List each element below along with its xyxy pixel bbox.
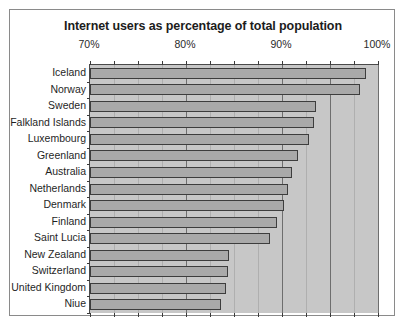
category-tickmark bbox=[87, 164, 90, 165]
bar bbox=[90, 200, 284, 211]
category-label: Sweden bbox=[48, 97, 86, 114]
category-tickmark bbox=[87, 131, 90, 132]
category-tickmark bbox=[87, 263, 90, 264]
bar bbox=[90, 250, 229, 261]
bar bbox=[90, 134, 309, 145]
category-label: Netherlands bbox=[29, 180, 86, 197]
category-tickmark bbox=[87, 197, 90, 198]
axis-tickmark bbox=[378, 313, 379, 317]
bar bbox=[90, 217, 277, 228]
category-label: Greenland bbox=[37, 147, 86, 164]
category-label: Luxembourg bbox=[28, 130, 86, 147]
category-tickmark bbox=[87, 280, 90, 281]
category-tickmark bbox=[87, 313, 90, 314]
category-tickmark bbox=[87, 181, 90, 182]
category-label: Saint Lucia bbox=[34, 229, 86, 246]
category-tickmark bbox=[87, 115, 90, 116]
bar bbox=[90, 101, 316, 112]
category-tickmark bbox=[87, 214, 90, 215]
category-label: Denmark bbox=[43, 196, 86, 213]
axis-tickmark bbox=[258, 313, 259, 317]
category-label: Niue bbox=[64, 295, 86, 312]
category-label: Australia bbox=[45, 163, 86, 180]
bar bbox=[90, 117, 314, 128]
axis-tickmark bbox=[90, 313, 91, 317]
category-tickmark bbox=[87, 230, 90, 231]
axis-tickmark bbox=[330, 313, 331, 317]
category-label: United Kingdom bbox=[11, 279, 86, 296]
axis-tickmark bbox=[378, 61, 379, 65]
category-label: Norway bbox=[50, 81, 86, 98]
axis-tickmark bbox=[138, 313, 139, 317]
axis-tickmark bbox=[306, 313, 307, 317]
axis-tickmark bbox=[162, 313, 163, 317]
category-tickmark bbox=[87, 148, 90, 149]
category-label: Iceland bbox=[52, 64, 86, 81]
bar bbox=[90, 150, 298, 161]
bar bbox=[90, 167, 292, 178]
plot-wrapper: IcelandNorwaySwedenFalkland IslandsLuxem… bbox=[10, 10, 396, 317]
axis-tickmark bbox=[258, 61, 259, 65]
bar bbox=[90, 283, 226, 294]
axis-tickmark bbox=[162, 61, 163, 65]
category-axis-labels: IcelandNorwaySwedenFalkland IslandsLuxem… bbox=[10, 64, 89, 312]
axis-tickmark bbox=[210, 61, 211, 65]
plot-area bbox=[89, 64, 378, 313]
axis-tickmark bbox=[354, 61, 355, 65]
category-label: Finland bbox=[52, 213, 86, 230]
chart-frame: Internet users as percentage of total po… bbox=[9, 9, 395, 316]
bar bbox=[90, 266, 228, 277]
bar bbox=[90, 233, 270, 244]
category-tickmark bbox=[87, 98, 90, 99]
category-label: Switzerland bbox=[32, 262, 86, 279]
axis-tickmark bbox=[282, 61, 283, 65]
axis-tickmark bbox=[114, 61, 115, 65]
gridline bbox=[354, 65, 355, 313]
category-tickmark bbox=[87, 296, 90, 297]
axis-tickmark bbox=[186, 61, 187, 65]
axis-tickmark bbox=[234, 313, 235, 317]
bar bbox=[90, 184, 288, 195]
axis-tickmark bbox=[354, 313, 355, 317]
gridline bbox=[330, 65, 331, 313]
category-label: Falkland Islands bbox=[10, 114, 86, 131]
category-tickmark bbox=[87, 82, 90, 83]
axis-tickmark bbox=[210, 313, 211, 317]
bar bbox=[90, 84, 360, 95]
bar bbox=[90, 299, 221, 310]
axis-tickmark bbox=[90, 61, 91, 65]
axis-tickmark bbox=[138, 61, 139, 65]
gridline bbox=[378, 65, 379, 313]
category-label: New Zealand bbox=[24, 246, 86, 263]
axis-tickmark bbox=[234, 61, 235, 65]
category-tickmark bbox=[87, 247, 90, 248]
axis-tickmark bbox=[186, 313, 187, 317]
axis-tickmark bbox=[114, 313, 115, 317]
axis-tickmark bbox=[306, 61, 307, 65]
bar bbox=[90, 68, 366, 79]
axis-tickmark bbox=[330, 61, 331, 65]
axis-tickmark bbox=[282, 313, 283, 317]
